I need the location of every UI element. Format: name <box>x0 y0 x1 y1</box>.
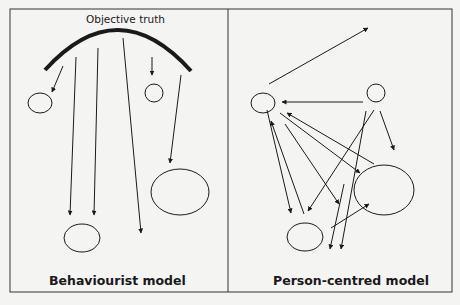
behaviourist-panel <box>28 30 209 252</box>
objective-truth-label: Objective truth <box>86 13 165 25</box>
person-centred-individual-ellipse-1 <box>251 93 275 113</box>
person-centred-arrow-7 <box>280 113 360 173</box>
behaviourist-model-title: Behaviourist model <box>49 273 186 288</box>
diagram-svg <box>0 0 460 305</box>
person-centred-model-title: Person-centred model <box>273 273 429 288</box>
behaviourist-arrows <box>52 38 181 233</box>
objective-truth-arc <box>45 30 191 71</box>
person-centred-arrow-4 <box>341 111 366 249</box>
person-centred-individual-ellipse-4 <box>287 223 323 251</box>
behaviourist-individual-ellipse-4 <box>64 224 100 252</box>
behaviourist-arrow-4 <box>94 48 98 215</box>
diagram-canvas: Objective truth Behaviourist model Perso… <box>0 0 460 305</box>
person-centred-individuals <box>251 84 414 251</box>
behaviourist-individual-ellipse-2 <box>145 84 163 102</box>
person-centred-arrow-8 <box>285 124 339 204</box>
behaviourist-arrow-1 <box>52 66 63 92</box>
behaviourist-individuals <box>28 84 209 252</box>
diagram-frame <box>10 9 452 292</box>
behaviourist-individual-ellipse-1 <box>28 93 52 113</box>
behaviourist-individual-ellipse-3 <box>151 169 209 215</box>
person-centred-arrows <box>267 28 394 249</box>
person-centred-panel <box>251 28 414 251</box>
behaviourist-arrow-3 <box>70 57 76 215</box>
behaviourist-arrow-5 <box>123 38 141 233</box>
person-centred-individual-ellipse-2 <box>367 84 385 102</box>
person-centred-arrow-5 <box>380 111 394 150</box>
person-centred-arrow-9 <box>267 110 291 213</box>
person-centred-arrow-1 <box>269 28 368 84</box>
behaviourist-arrow-6 <box>170 75 181 163</box>
